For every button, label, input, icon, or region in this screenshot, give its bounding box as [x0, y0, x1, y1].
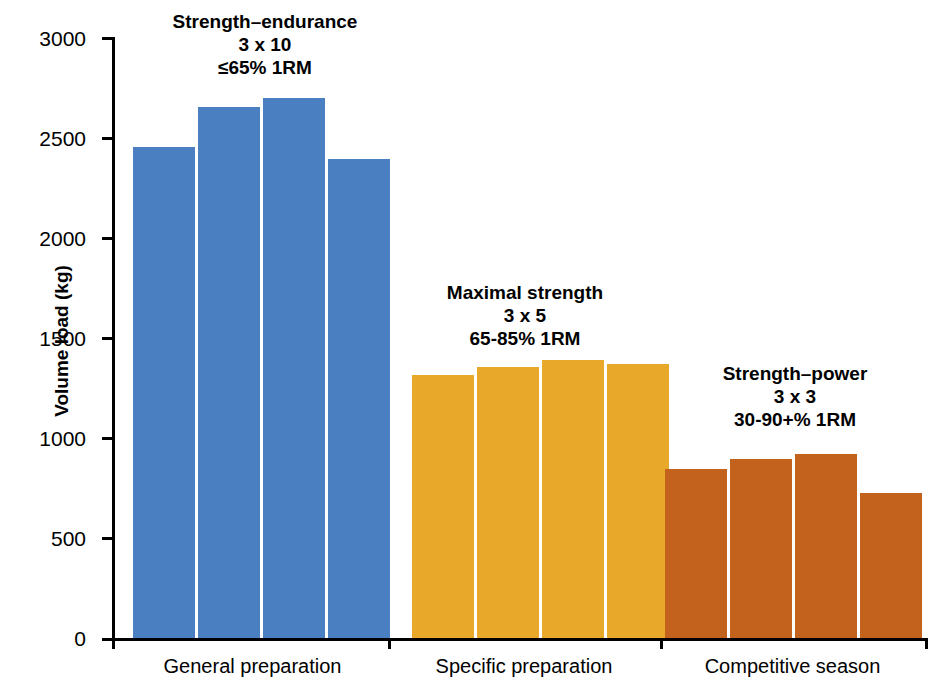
y-tick-mark-2000 — [102, 237, 112, 240]
bar-general-4 — [328, 159, 390, 640]
bar-separator — [792, 459, 795, 640]
bar-specific-1 — [412, 375, 474, 640]
bar-competitive-3 — [795, 454, 857, 640]
annotation-sets-reps-specific: 3 x 5 — [390, 304, 660, 327]
y-tick-label-500: 500 — [0, 527, 86, 551]
x-tick-mark-start — [112, 638, 115, 649]
annotation-competitive-season: Strength–power 3 x 3 30-90+% 1RM — [660, 362, 930, 432]
x-tick-mark-group2-group3 — [660, 638, 663, 649]
annotation-intensity-competitive: 30-90+% 1RM — [660, 408, 930, 431]
bar-competitive-1 — [665, 469, 727, 640]
bar-separator — [195, 147, 198, 640]
x-category-label-specific-preparation: Specific preparation — [388, 655, 660, 678]
annotation-sets-reps-competitive: 3 x 3 — [660, 385, 930, 408]
y-tick-label-3000: 3000 — [0, 27, 86, 51]
bar-specific-2 — [477, 367, 539, 640]
bar-separator — [727, 469, 730, 640]
bar-general-2 — [198, 107, 260, 640]
bar-general-3 — [263, 98, 325, 640]
y-tick-label-2500: 2500 — [0, 127, 86, 151]
y-tick-mark-1500 — [102, 337, 112, 340]
y-tick-label-0: 0 — [0, 627, 86, 651]
bar-separator — [474, 375, 477, 640]
x-tick-mark-group1-group2 — [388, 638, 391, 649]
bar-competitive-2 — [730, 459, 792, 640]
annotation-phase-specific: Maximal strength — [390, 281, 660, 304]
y-tick-mark-0 — [102, 638, 112, 641]
annotation-specific-preparation: Maximal strength 3 x 5 65-85% 1RM — [390, 281, 660, 351]
y-tick-label-1500: 1500 — [0, 327, 86, 351]
y-tick-mark-3000 — [102, 37, 112, 40]
y-tick-label-1000: 1000 — [0, 427, 86, 451]
y-tick-mark-1000 — [102, 437, 112, 440]
bar-separator — [604, 364, 607, 640]
x-axis-line — [112, 638, 928, 641]
bar-separator — [857, 493, 860, 640]
x-tick-mark-end — [925, 638, 928, 649]
annotation-general-preparation: Strength–endurance 3 x 10 ≤65% 1RM — [130, 10, 400, 80]
annotation-intensity-general: ≤65% 1RM — [130, 56, 400, 79]
annotation-phase-general: Strength–endurance — [130, 10, 400, 33]
x-category-label-general-preparation: General preparation — [115, 655, 390, 678]
bar-specific-3 — [542, 360, 604, 640]
bar-separator — [260, 107, 263, 640]
annotation-phase-competitive: Strength–power — [660, 362, 930, 385]
y-tick-mark-2500 — [102, 137, 112, 140]
x-category-label-competitive-season: Competitive season — [660, 655, 925, 678]
y-tick-mark-500 — [102, 537, 112, 540]
bar-separator — [325, 159, 328, 640]
annotation-sets-reps-general: 3 x 10 — [130, 33, 400, 56]
bar-separator — [539, 367, 542, 640]
bar-chart: Volume load (kg) 3000 2500 2000 1500 100… — [0, 0, 941, 694]
bar-competitive-4 — [860, 493, 922, 640]
y-tick-label-2000: 2000 — [0, 227, 86, 251]
annotation-intensity-specific: 65-85% 1RM — [390, 327, 660, 350]
bar-general-1 — [133, 147, 195, 640]
